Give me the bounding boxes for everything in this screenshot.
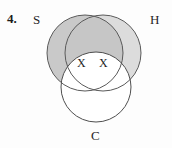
set-label-c: C: [91, 128, 100, 144]
x-mark-right: X: [99, 56, 108, 71]
venn-diagram: [0, 0, 172, 148]
set-label-s: S: [33, 12, 41, 28]
x-mark-left: X: [77, 56, 86, 71]
set-label-h: H: [150, 12, 160, 28]
figure-canvas: 4. S H C X X: [0, 0, 172, 148]
